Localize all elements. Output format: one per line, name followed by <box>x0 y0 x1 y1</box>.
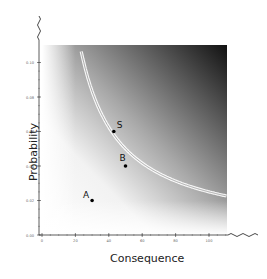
point-label: A <box>83 190 90 200</box>
x-tick-label: 60 <box>140 239 145 243</box>
x-tick-label: 100 <box>206 239 214 243</box>
y-tick-label: 0.10 <box>26 61 35 65</box>
x-tick-label: 40 <box>107 239 112 243</box>
risk-gradient-area <box>42 45 227 235</box>
x-axis-break-icon <box>228 234 258 237</box>
y-axis-label: Probability <box>27 123 40 181</box>
x-axis-label: Consequence <box>110 252 184 265</box>
x-tick-label: 80 <box>173 239 178 243</box>
y-tick-label: 0.00 <box>26 234 35 238</box>
x-tick-label: 20 <box>73 239 78 243</box>
point-label: B <box>120 153 126 163</box>
risk-chart: 0.000.020.040.060.080.10 020406080100 AB… <box>0 0 267 279</box>
y-tick-label: 0.08 <box>26 96 35 100</box>
y-axis-break-icon <box>38 16 41 40</box>
x-tick-label: 0 <box>41 239 44 243</box>
y-tick-label: 0.02 <box>26 199 34 203</box>
point-label: S <box>117 120 123 130</box>
